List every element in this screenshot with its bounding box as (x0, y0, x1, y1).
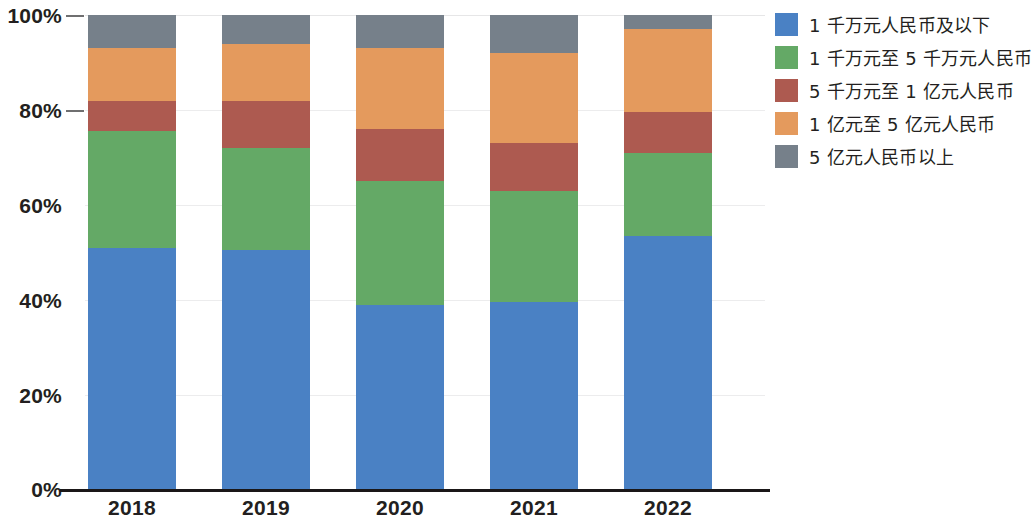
legend-swatch-icon-4 (775, 145, 798, 168)
bar-2020[interactable] (356, 15, 444, 490)
x-axis-tick-2018: 2018 (62, 496, 202, 520)
legend-swatch-icon-2 (775, 79, 798, 102)
y-axis-tick-20: 20% (0, 384, 62, 408)
y-axis-tick-40: 40% (0, 289, 62, 313)
bar-segment-2019-3[interactable] (222, 44, 310, 101)
bar-segment-2021-3[interactable] (490, 53, 578, 143)
y-axis-tick-80: 80% (0, 99, 62, 123)
y-tick-dash-80 (66, 110, 84, 112)
bar-segment-2022-2[interactable] (624, 112, 712, 152)
legend-item-3[interactable]: 1 亿元至 5 亿元人民币 (775, 107, 1020, 139)
bar-segment-2022-1[interactable] (624, 153, 712, 236)
x-axis-tick-2020: 2020 (330, 496, 470, 520)
legend-item-1[interactable]: 1 千万元至 5 千万元人民币 (775, 41, 1020, 73)
legend-swatch-icon-0 (775, 13, 798, 36)
bar-segment-2018-3[interactable] (88, 48, 176, 100)
bar-2021[interactable] (490, 15, 578, 490)
bar-segment-2021-0[interactable] (490, 302, 578, 490)
bar-segment-2021-1[interactable] (490, 191, 578, 303)
legend-swatch-icon-1 (775, 46, 798, 69)
legend-item-0[interactable]: 1 千万元人民币及以下 (775, 8, 1020, 40)
bar-segment-2020-0[interactable] (356, 305, 444, 490)
bar-segment-2020-1[interactable] (356, 181, 444, 305)
bar-segment-2022-0[interactable] (624, 236, 712, 490)
bar-2022[interactable] (624, 15, 712, 490)
bar-segment-2018-4[interactable] (88, 15, 176, 48)
legend-item-2[interactable]: 5 千万元至 1 亿元人民币 (775, 74, 1020, 106)
x-axis-tick-2021: 2021 (464, 496, 604, 520)
y-axis-tick-60: 60% (0, 194, 62, 218)
y-axis-tick-0: 0% (0, 478, 62, 502)
legend: 1 千万元人民币及以下 1 千万元至 5 千万元人民币 5 千万元至 1 亿元人… (775, 8, 1020, 173)
x-axis-tick-2022: 2022 (598, 496, 738, 520)
y-tick-dash-100 (66, 15, 84, 17)
bar-segment-2019-1[interactable] (222, 148, 310, 250)
legend-label-0: 1 千万元人民币及以下 (809, 11, 990, 37)
bar-segment-2019-0[interactable] (222, 250, 310, 490)
bar-segment-2018-2[interactable] (88, 101, 176, 132)
bar-segment-2018-1[interactable] (88, 131, 176, 247)
bar-segment-2020-2[interactable] (356, 129, 444, 181)
y-axis-tick-100: 100% (0, 4, 62, 28)
legend-label-3: 1 亿元至 5 亿元人民币 (809, 110, 996, 136)
bar-segment-2019-4[interactable] (222, 15, 310, 44)
bar-segment-2022-4[interactable] (624, 15, 712, 29)
x-axis-tick-2019: 2019 (196, 496, 336, 520)
bar-segment-2022-3[interactable] (624, 29, 712, 112)
bar-2018[interactable] (88, 15, 176, 490)
bar-2019[interactable] (222, 15, 310, 490)
legend-label-1: 1 千万元至 5 千万元人民币 (809, 44, 1032, 70)
legend-swatch-icon-3 (775, 112, 798, 135)
bar-segment-2021-4[interactable] (490, 15, 578, 53)
bar-segment-2021-2[interactable] (490, 143, 578, 191)
legend-label-4: 5 亿元人民币以上 (809, 143, 954, 169)
bar-segment-2018-0[interactable] (88, 248, 176, 490)
bar-segment-2019-2[interactable] (222, 101, 310, 149)
bar-segment-2020-4[interactable] (356, 15, 444, 48)
legend-label-2: 5 千万元至 1 亿元人民币 (809, 77, 1014, 103)
legend-item-4[interactable]: 5 亿元人民币以上 (775, 140, 1020, 172)
bar-segment-2020-3[interactable] (356, 48, 444, 129)
x-axis-line (60, 489, 770, 492)
